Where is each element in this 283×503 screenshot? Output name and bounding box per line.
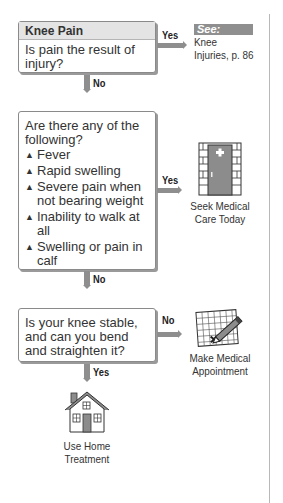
symptom-item: ▲Rapid swelling — [25, 164, 149, 178]
calendar-pencil-icon — [195, 307, 247, 349]
triangle-bullet-icon: ▲ — [25, 240, 34, 254]
right-arrow-icon — [157, 188, 178, 193]
yes-label: Yes — [162, 174, 178, 186]
down-arrow-icon — [84, 364, 90, 378]
triangle-bullet-icon: ▲ — [25, 180, 34, 194]
symptom-text: Rapid swelling — [37, 163, 121, 178]
caption-line1: Use Home — [56, 440, 119, 453]
symptom-item: ▲Fever — [25, 148, 149, 162]
yes-label: Yes — [162, 29, 178, 41]
symptom-list: ▲Fever ▲Rapid swelling ▲Severe pain when… — [25, 148, 149, 268]
caption-line2: Care Today — [189, 213, 252, 226]
right-arrow-icon — [157, 332, 178, 337]
down-arrow-icon — [84, 271, 90, 285]
symptom-text: Severe pain when not bearing weight — [37, 179, 143, 208]
right-arrow-icon — [157, 43, 183, 48]
question-body: Are there any of the following? ▲Fever ▲… — [19, 112, 155, 275]
caption-line1: Seek Medical — [189, 200, 252, 213]
question-text: Is your knee stable, and can you bend an… — [19, 309, 155, 363]
see-reference: Knee Injuries, p. 86 — [194, 36, 253, 62]
house-icon — [64, 390, 110, 434]
no-label: No — [162, 314, 174, 326]
triangle-bullet-icon: ▲ — [25, 148, 34, 162]
triangle-bullet-icon: ▲ — [25, 164, 34, 178]
no-label: No — [93, 273, 105, 285]
caption-line1: Make Medical — [184, 352, 256, 365]
symptom-item: ▲Swelling or pain in calf — [25, 240, 149, 268]
down-arrow-icon — [84, 75, 90, 89]
caption-line2: Treatment — [56, 453, 119, 466]
question-box-symptoms: Are there any of the following? ▲Fever ▲… — [18, 111, 156, 270]
symptom-item: ▲Inability to walk at all — [25, 210, 149, 238]
see-reference-line2: Injuries, p. 86 — [194, 49, 253, 62]
page-margin-rule — [269, 14, 270, 503]
symptom-item: ▲Severe pain when not bearing weight — [25, 180, 149, 208]
yes-label: Yes — [93, 366, 109, 378]
symptom-text: Inability to walk at all — [37, 209, 140, 238]
see-tag: See: — [194, 24, 253, 35]
hospital-door-icon — [198, 142, 242, 196]
outcome-home-treatment-caption: Use Home Treatment — [56, 440, 119, 466]
symptom-text: Fever — [37, 147, 70, 162]
question-box-knee-pain: Knee Pain Is pain the result of injury? — [18, 21, 156, 73]
question-text: Are there any of the following? — [25, 119, 149, 147]
outcome-appointment-caption: Make Medical Appointment — [184, 352, 256, 378]
question-box-knee-stable: Is your knee stable, and can you bend an… — [18, 308, 156, 362]
triangle-bullet-icon: ▲ — [25, 210, 34, 224]
see-reference-line1: Knee — [194, 36, 253, 49]
outcome-seek-care-caption: Seek Medical Care Today — [189, 200, 252, 226]
no-label: No — [93, 77, 105, 89]
caption-line2: Appointment — [184, 365, 256, 378]
symptom-text: Swelling or pain in calf — [37, 239, 143, 268]
box-header: Knee Pain — [19, 22, 155, 40]
question-text: Is pain the result of injury? — [19, 40, 155, 76]
